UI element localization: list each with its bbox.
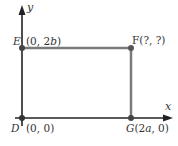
point-F-label: F(?, ?) [132, 35, 165, 46]
point-G-coords-end: , 0) [151, 122, 168, 134]
x-axis-arrow-icon [163, 115, 173, 122]
point-G [128, 115, 134, 121]
point-D-name: D [11, 123, 19, 134]
point-E-coords-end: ) [57, 35, 61, 47]
point-E-coords-var: b [50, 35, 57, 47]
point-E-coords-text: (0, 2 [26, 35, 50, 47]
point-G-label: G(2a, 0) [126, 123, 169, 134]
point-E-coords: (0, 2b) [26, 36, 61, 47]
y-axis-label: y [27, 2, 33, 13]
point-D-coords: (0, 0) [26, 123, 54, 134]
point-E-name: E [13, 36, 21, 47]
y-axis-arrow-icon [19, 5, 26, 15]
x-axis-label: x [165, 101, 171, 112]
point-G-coords-start: (2 [134, 122, 145, 134]
coordinate-diagram: y x E (0, 2b) F(?, ?) D (0, 0) G(2a, 0) [0, 0, 178, 146]
point-D [19, 115, 25, 121]
